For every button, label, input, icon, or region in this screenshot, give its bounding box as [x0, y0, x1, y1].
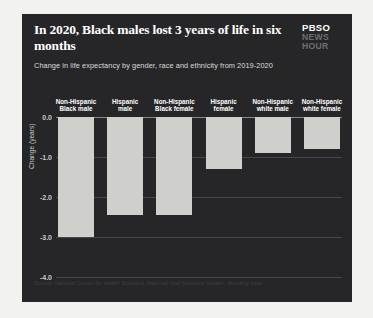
bar-column: Hispanicfemale [204, 117, 244, 277]
chart-card: In 2020, Black males lost 3 years of lif… [22, 14, 352, 302]
bar-category-label: Hispanicfemale [201, 98, 247, 113]
bar: Non-Hispanicwhite female [304, 117, 340, 149]
y-tick-label: -3.0 [40, 234, 52, 241]
y-tick-label: -1.0 [40, 154, 52, 161]
bar-label-line: Non-Hispanic [151, 98, 197, 106]
bar-label-line: female [201, 105, 247, 113]
screenshot-root: In 2020, Black males lost 3 years of lif… [0, 0, 373, 318]
gridline--4.0: -4.0 [56, 277, 342, 278]
bar-column: Non-Hispanicwhite male [253, 117, 293, 277]
bar-label-line: Black male [53, 105, 99, 113]
bar: Non-HispanicBlack female [156, 117, 192, 215]
bar-label-line: Non-Hispanic [53, 98, 99, 106]
bar-label-line: male [102, 105, 148, 113]
bar-chart-plot: Change (years) 0.0-1.0-2.0-3.0-4.0 Non-H… [56, 117, 342, 277]
bar-label-line: Hispanic [102, 98, 148, 106]
bar-category-label: Hispanicmale [102, 98, 148, 113]
chart-subtitle: Change in life expectancy by gender, rac… [34, 61, 273, 70]
chart-title: In 2020, Black males lost 3 years of lif… [34, 22, 284, 53]
y-tick-label: -2.0 [40, 194, 52, 201]
bar-label-line: white male [250, 105, 296, 113]
bar-label-line: white female [299, 105, 345, 113]
bar-series: Non-HispanicBlack maleHispanicmaleNon-Hi… [56, 117, 342, 277]
bar-category-label: Non-HispanicBlack female [151, 98, 197, 113]
bar-label-line: Non-Hispanic [299, 98, 345, 106]
y-tick-label: 0.0 [42, 114, 52, 121]
bar-category-label: Non-Hispanicwhite female [299, 98, 345, 113]
bar-category-label: Non-Hispanicwhite male [250, 98, 296, 113]
pbs-newshour-logo: PBSO NEWS HOUR [302, 23, 344, 51]
bar-category-label: Non-HispanicBlack male [53, 98, 99, 113]
logo-hour-text: HOUR [302, 42, 344, 51]
bar-column: Non-HispanicBlack male [56, 117, 96, 277]
chart-header: In 2020, Black males lost 3 years of lif… [34, 22, 342, 84]
bar-column: Non-HispanicBlack female [154, 117, 194, 277]
bar-column: Hispanicmale [105, 117, 145, 277]
bar: Non-Hispanicwhite male [255, 117, 291, 153]
bar-label-line: Black female [151, 105, 197, 113]
bar: Non-HispanicBlack male [58, 117, 94, 237]
source-note: Source: National Center for Health Stati… [34, 280, 262, 286]
bar-column: Non-Hispanicwhite female [302, 117, 342, 277]
bar: Hispanicmale [107, 117, 143, 215]
bar: Hispanicfemale [206, 117, 242, 169]
y-axis-label: Change (years) [28, 124, 35, 169]
bar-label-line: Hispanic [201, 98, 247, 106]
bar-label-line: Non-Hispanic [250, 98, 296, 106]
